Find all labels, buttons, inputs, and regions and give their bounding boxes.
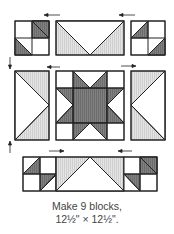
left-flying-geese — [15, 71, 49, 140]
bottom-left-four-patch — [23, 157, 57, 191]
arrow-left-icon — [47, 66, 60, 69]
arrow-left-icon — [118, 150, 132, 153]
caption-line-2: 12½" × 12½". — [0, 213, 174, 225]
top-right-four-patch — [131, 21, 165, 55]
top-left-four-patch — [15, 21, 49, 55]
center-star — [56, 71, 124, 140]
arrow-down-icon — [9, 57, 12, 69]
top-flying-geese — [56, 21, 124, 55]
quilt-block-diagram — [0, 0, 174, 234]
arrow-left-icon — [44, 14, 60, 17]
arrow-up-icon — [9, 141, 12, 153]
bottom-right-four-patch — [124, 157, 157, 191]
arrow-right-icon — [121, 65, 136, 68]
arrow-left-icon — [119, 14, 135, 17]
bottom-flying-geese — [56, 157, 124, 191]
caption-line-1: Make 9 blocks, — [0, 200, 174, 212]
right-flying-geese — [131, 71, 165, 140]
arrow-right-icon — [49, 150, 64, 153]
